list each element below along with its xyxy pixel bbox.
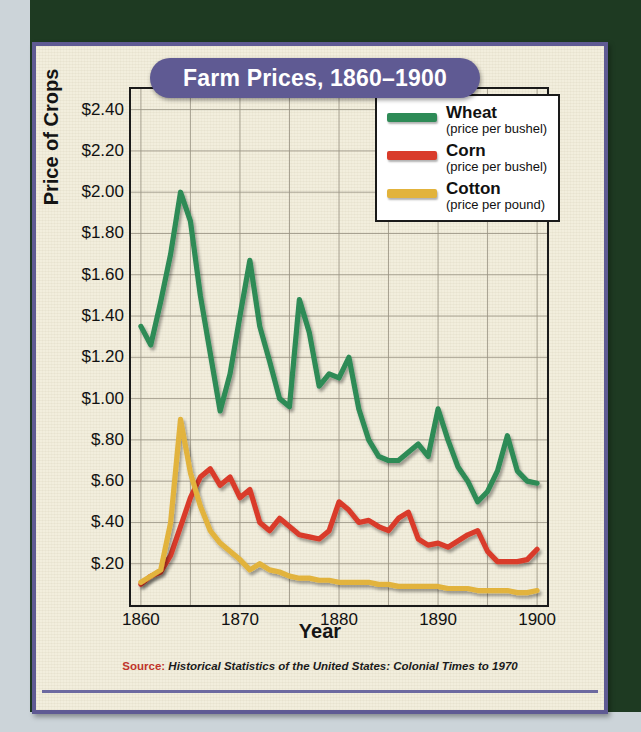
chart-title-pill: Farm Prices, 1860–1900 bbox=[150, 58, 480, 98]
chart-figure: Farm Prices, 1860–1900 Price of Crops $.… bbox=[32, 42, 608, 714]
y-tick-label: $2.00 bbox=[81, 182, 124, 202]
y-tick-label: $1.20 bbox=[81, 347, 124, 367]
legend-item-cotton[interactable]: Cotton(price per pound) bbox=[385, 180, 552, 213]
backdrop-top bbox=[30, 0, 641, 48]
page-edge-strip-bottom bbox=[0, 712, 641, 732]
legend-label: Cotton bbox=[446, 180, 545, 197]
y-tick-label: $1.40 bbox=[81, 306, 124, 326]
legend-swatch-cotton bbox=[387, 189, 437, 198]
legend-swatch-wheat bbox=[387, 113, 437, 122]
y-axis-tick-labels: $.20$.40$.60$.80$1.00$1.20$1.40$1.60$1.8… bbox=[50, 87, 128, 607]
page-title: Farm Prices, 1860–1900 bbox=[183, 65, 447, 92]
legend-label: Corn bbox=[446, 142, 547, 159]
source-note: Source: Historical Statistics of the Uni… bbox=[32, 660, 608, 672]
legend-item-corn[interactable]: Corn(price per bushel) bbox=[385, 142, 552, 175]
source-text: Historical Statistics of the United Stat… bbox=[168, 660, 517, 672]
y-tick-label: $.20 bbox=[91, 554, 124, 574]
y-tick-label: $2.20 bbox=[81, 141, 124, 161]
y-tick-label: $2.40 bbox=[81, 100, 124, 120]
legend-label: Wheat bbox=[446, 104, 547, 121]
page-edge-strip-left bbox=[0, 0, 30, 732]
source-label: Source: bbox=[122, 660, 165, 672]
y-tick-label: $1.00 bbox=[81, 389, 124, 409]
y-tick-label: $1.80 bbox=[81, 223, 124, 243]
y-tick-label: $.80 bbox=[91, 430, 124, 450]
legend-sublabel: (price per bushel) bbox=[446, 160, 547, 175]
y-tick-label: $1.60 bbox=[81, 265, 124, 285]
chart-legend: Wheat(price per bushel)Corn(price per bu… bbox=[375, 94, 560, 222]
y-tick-label: $.60 bbox=[91, 471, 124, 491]
x-axis-title: Year bbox=[32, 620, 608, 643]
legend-sublabel: (price per bushel) bbox=[446, 122, 547, 137]
legend-sublabel: (price per pound) bbox=[446, 198, 545, 213]
legend-item-wheat[interactable]: Wheat(price per bushel) bbox=[385, 104, 552, 137]
source-divider bbox=[42, 690, 598, 693]
y-tick-label: $.40 bbox=[91, 512, 124, 532]
legend-swatch-corn bbox=[387, 151, 437, 160]
